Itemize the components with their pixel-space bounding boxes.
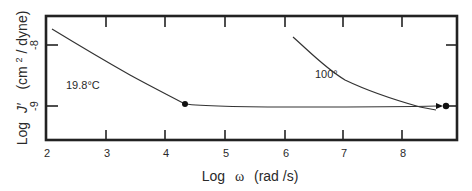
chart: 2 3 4 5 6 7 8 -8 -9 Log ω (rad /s) Log J… [0, 0, 472, 191]
label-100C: 100° [315, 68, 338, 80]
series-19-8C-line [52, 29, 437, 107]
y-ticks [46, 45, 457, 106]
svg-text:7: 7 [341, 147, 347, 159]
svg-text:2: 2 [44, 147, 50, 159]
svg-text:6: 6 [283, 147, 289, 159]
series-19-8C-dot-end [443, 103, 449, 109]
plot-frame [46, 16, 457, 140]
series-19-8C-dot-mid [182, 101, 188, 107]
y-axis-label: Log J′ (cm 2 / dyne) [9, 11, 30, 146]
label-19-8C: 19.8°C [66, 79, 100, 91]
x-ticks [106, 16, 402, 140]
svg-text:8: 8 [400, 147, 406, 159]
arrow-icon [436, 103, 443, 109]
x-axis-label: Log ω (rad /s) [202, 168, 299, 184]
x-tick-labels: 2 3 4 5 6 7 8 [44, 147, 406, 159]
svg-text:3: 3 [104, 147, 110, 159]
svg-text:4: 4 [163, 147, 169, 159]
svg-text:5: 5 [223, 147, 229, 159]
